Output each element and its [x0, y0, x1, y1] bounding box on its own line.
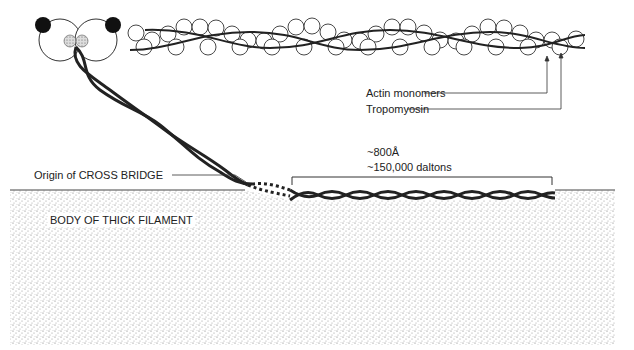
thick-filament-label: BODY OF THICK FILAMENT: [48, 213, 195, 227]
myosin-neck: [75, 47, 252, 185]
length-label: ~800Å: [367, 146, 399, 158]
myosin-heads: [35, 17, 121, 61]
cross-bridge-origin-label: Origin of CROSS BRIDGE: [34, 169, 163, 181]
tropomyosin-label: Tropomyosin: [366, 103, 429, 115]
mass-label: ~150,000 daltons: [367, 161, 452, 173]
actin-monomers-label: Actin monomers: [366, 87, 445, 99]
length-bracket: [292, 177, 552, 185]
lmm-helix: [290, 190, 555, 200]
